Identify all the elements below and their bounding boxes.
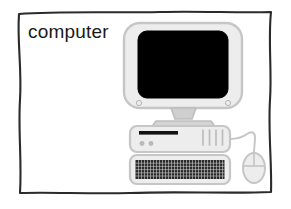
tower-body bbox=[130, 126, 230, 152]
tower-disk-slot bbox=[139, 131, 178, 135]
monitor-indicator-left bbox=[136, 100, 141, 105]
mouse bbox=[243, 153, 265, 183]
monitor-indicator-right bbox=[225, 100, 230, 105]
tower-button-1 bbox=[140, 141, 145, 146]
flashcard-page: computer bbox=[0, 0, 291, 209]
tower bbox=[130, 126, 230, 152]
monitor-stand-neck bbox=[171, 108, 196, 119]
monitor bbox=[124, 23, 242, 108]
monitor-screen bbox=[138, 31, 228, 98]
keyboard bbox=[130, 155, 230, 184]
tower-button-2 bbox=[149, 141, 154, 146]
card-label: computer bbox=[28, 21, 109, 43]
